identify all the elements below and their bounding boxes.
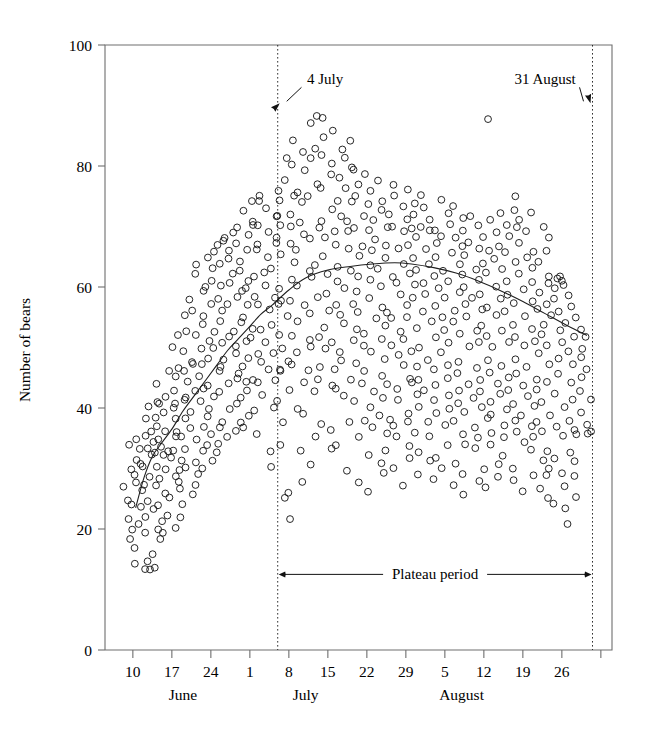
scatter-point bbox=[537, 485, 544, 492]
scatter-point bbox=[255, 301, 262, 308]
scatter-points bbox=[120, 113, 594, 573]
scatter-point bbox=[519, 488, 526, 495]
scatter-point bbox=[405, 242, 412, 249]
scatter-point bbox=[126, 441, 133, 448]
scatter-point bbox=[267, 448, 274, 455]
scatter-point bbox=[120, 483, 127, 490]
scatter-point bbox=[408, 225, 415, 232]
scatter-point bbox=[265, 254, 272, 261]
scatter-point bbox=[493, 229, 500, 236]
scatter-point bbox=[404, 186, 411, 193]
scatter-point bbox=[286, 387, 293, 394]
scatter-point bbox=[150, 506, 157, 513]
scatter-point bbox=[352, 193, 359, 200]
scatter-point bbox=[513, 224, 520, 231]
scatter-point bbox=[405, 410, 412, 417]
scatter-point bbox=[475, 222, 482, 229]
scatter-point bbox=[473, 266, 480, 273]
scatter-point bbox=[290, 137, 297, 144]
scatter-point bbox=[555, 370, 562, 377]
scatter-point bbox=[350, 301, 357, 308]
scatter-point bbox=[462, 301, 469, 308]
arrow-head bbox=[279, 571, 286, 577]
scatter-point bbox=[389, 223, 396, 230]
scatter-point bbox=[162, 393, 169, 400]
scatter-point bbox=[374, 265, 381, 272]
scatter-point bbox=[144, 498, 151, 505]
scatter-point bbox=[199, 321, 206, 328]
scatter-point bbox=[397, 328, 404, 335]
scatter-point bbox=[474, 365, 481, 372]
scatter-point bbox=[460, 431, 467, 438]
scatter-point bbox=[390, 465, 397, 472]
scatter-point bbox=[181, 312, 188, 319]
scatter-point bbox=[422, 291, 429, 298]
scatter-point bbox=[445, 210, 452, 217]
scatter-point bbox=[155, 502, 162, 509]
scatter-point bbox=[181, 368, 188, 375]
scatter-point bbox=[243, 338, 250, 345]
scatter-point bbox=[301, 379, 308, 386]
scatter-point bbox=[362, 171, 369, 178]
scatter-point bbox=[211, 248, 218, 255]
scatter-point bbox=[149, 551, 156, 558]
scatter-point bbox=[280, 419, 287, 426]
scatter-point bbox=[523, 363, 530, 370]
scatter-point bbox=[254, 222, 261, 229]
scatter-point bbox=[276, 197, 283, 204]
scatter-point bbox=[512, 259, 519, 266]
scatter-point bbox=[292, 246, 299, 253]
scatter-point bbox=[459, 471, 466, 478]
scatter-point bbox=[182, 464, 189, 471]
scatter-point bbox=[545, 280, 552, 287]
scatter-point bbox=[414, 391, 421, 398]
scatter-point bbox=[159, 518, 166, 525]
scatter-point bbox=[332, 241, 339, 248]
x-month-label: June bbox=[169, 686, 198, 703]
scatter-point bbox=[321, 324, 328, 331]
scatter-point bbox=[505, 374, 512, 381]
scatter-point bbox=[456, 387, 463, 394]
scatter-point bbox=[446, 405, 453, 412]
scatter-point bbox=[530, 248, 537, 255]
scatter-point bbox=[208, 301, 215, 308]
scatter-point bbox=[225, 255, 232, 262]
scatter-point bbox=[579, 345, 586, 352]
scatter-point bbox=[380, 469, 387, 476]
scatter-point bbox=[420, 280, 427, 287]
y-tick-label: 80 bbox=[77, 158, 93, 175]
scatter-point bbox=[479, 306, 486, 313]
scatter-point bbox=[204, 254, 211, 261]
scatter-point bbox=[499, 266, 506, 273]
scatter-point bbox=[234, 375, 241, 382]
scatter-point bbox=[177, 514, 184, 521]
y-axis-ticks: 020406080100 bbox=[69, 37, 105, 659]
scatter-point bbox=[216, 260, 223, 267]
scatter-point bbox=[447, 221, 454, 228]
scatter-point bbox=[370, 217, 377, 224]
scatter-point bbox=[412, 281, 419, 288]
scatter-point bbox=[226, 247, 233, 254]
scatter-point bbox=[360, 330, 367, 337]
scatter-point bbox=[530, 433, 537, 440]
scatter-point bbox=[200, 287, 207, 294]
scatter-point bbox=[432, 454, 439, 461]
x-tick-label: 5 bbox=[441, 663, 449, 680]
scatter-point bbox=[318, 152, 325, 159]
x-tick-label: 1 bbox=[246, 663, 254, 680]
scatter-point bbox=[224, 433, 231, 440]
scatter-point bbox=[450, 417, 457, 424]
guide-lines bbox=[278, 45, 593, 650]
scatter-point bbox=[192, 459, 199, 466]
scatter-point bbox=[367, 262, 374, 269]
scatter-point bbox=[476, 245, 483, 252]
scatter-point bbox=[539, 428, 546, 435]
scatter-point bbox=[276, 332, 283, 339]
x-tick-label: 19 bbox=[515, 663, 531, 680]
scatter-point bbox=[546, 361, 553, 368]
scatter-point bbox=[433, 334, 440, 341]
scatter-point bbox=[390, 181, 397, 188]
scatter-point bbox=[189, 307, 196, 314]
scatter-point bbox=[186, 296, 193, 303]
scatter-point bbox=[400, 362, 407, 369]
